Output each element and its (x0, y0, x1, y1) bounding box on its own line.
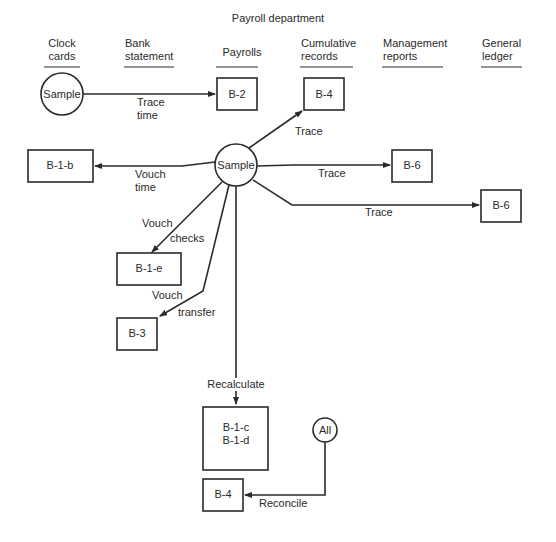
node-b1e: B-1-e (117, 253, 181, 285)
edge-label-recalculate: Recalculate (207, 378, 264, 390)
edge-label-vouch: Vouch (135, 168, 166, 180)
edge-trace-b6-right (253, 180, 479, 205)
edge-label-trace: Trace (318, 167, 346, 179)
edge-label-trace: Trace (137, 96, 165, 108)
edge-vouch-time (95, 162, 215, 166)
column-header-bank-statement: Bank statement (124, 37, 174, 67)
column-label-line1: Clock (48, 37, 76, 49)
node-label: B-4 (214, 488, 231, 500)
node-label: Sample (217, 159, 254, 171)
column-label-line1: Payrolls (222, 46, 262, 58)
node-sample-center: Sample (215, 144, 257, 186)
column-label-line2: statement (125, 50, 173, 62)
edge-label-reconcile: Reconcile (259, 497, 307, 509)
diagram-title: Payroll department (232, 12, 324, 24)
edge-label-trace: Trace (295, 125, 323, 137)
node-label: All (319, 424, 331, 436)
column-header-clock-cards: Clock cards (44, 37, 80, 67)
node-label: B-6 (492, 199, 509, 211)
node-label-b1d: B-1-d (223, 434, 250, 446)
node-b6-mid: B-6 (392, 150, 432, 182)
column-header-payrolls: Payrolls (216, 46, 262, 67)
column-header-general-ledger: General ledger (481, 37, 522, 67)
edge-label-time: time (137, 109, 158, 121)
column-label-line2: ledger (482, 50, 513, 62)
node-label: B-6 (403, 159, 420, 171)
edge-label-vouch: Vouch (152, 289, 183, 301)
node-label: B-1-e (136, 262, 163, 274)
column-label-line2: cards (49, 50, 76, 62)
node-label-b1c: B-1-c (223, 421, 250, 433)
node-b6-right: B-6 (481, 190, 521, 222)
column-label-line1: Bank (125, 37, 151, 49)
edge-label-trace: Trace (365, 206, 393, 218)
audit-flow-diagram: Payroll department Clock cards Bank stat… (0, 0, 556, 542)
node-label: B-2 (228, 88, 245, 100)
node-sample-clock-cards: Sample (41, 73, 83, 115)
column-label-line2: records (301, 50, 338, 62)
column-label-line1: Cumulative (301, 37, 356, 49)
node-b1c-b1d: B-1-c B-1-d (203, 407, 268, 470)
column-label-line1: Management (383, 37, 447, 49)
node-b4-bottom: B-4 (203, 479, 243, 511)
node-label: Sample (43, 88, 80, 100)
node-label: B-3 (128, 327, 145, 339)
node-all: All (313, 418, 337, 442)
column-label-line1: General (482, 37, 521, 49)
node-b2: B-2 (217, 78, 257, 110)
node-label: B-4 (315, 88, 332, 100)
edge-label-time: time (135, 181, 156, 193)
edge-trace-b6-mid (257, 165, 390, 166)
node-b1b: B-1-b (28, 150, 93, 182)
node-label: B-1-b (47, 159, 74, 171)
column-label-line2: reports (383, 50, 418, 62)
node-b3: B-3 (117, 318, 157, 350)
column-header-cumulative-records: Cumulative records (300, 37, 356, 67)
edge-label-vouch: Vouch (142, 217, 173, 229)
node-b4-top: B-4 (304, 78, 344, 110)
edge-label-transfer: transfer (178, 306, 216, 318)
column-header-management-reports: Management reports (382, 37, 447, 67)
edge-label-checks: checks (170, 232, 205, 244)
